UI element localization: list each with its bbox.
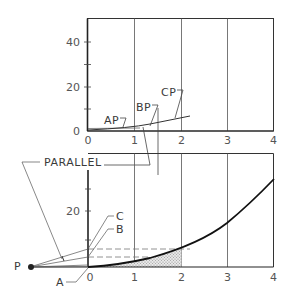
top-ytick-label-0: 0	[73, 125, 80, 138]
parallel-leader-top	[143, 127, 150, 165]
top-xtick-label-0: 0	[85, 134, 92, 147]
label-a: A	[56, 276, 64, 289]
label-bp: BP	[136, 101, 151, 114]
top-ytick-label-40: 40	[66, 36, 80, 49]
parallel-leader-left	[22, 162, 62, 259]
bottom-xtick-label-2: 2	[178, 271, 185, 284]
bottom-ytick-label-20: 20	[66, 205, 80, 218]
bottom-xtick-label-3: 3	[224, 271, 231, 284]
top-xtick-label-3: 3	[224, 134, 231, 147]
bottom-chart: PARALLEL 20 C B P A 0 1 2 3 4	[14, 154, 277, 290]
top-xtick-label-1: 1	[131, 134, 138, 147]
ap-leader	[120, 118, 126, 127]
top-ytick-label-20: 20	[66, 81, 80, 94]
point-p	[28, 264, 34, 270]
label-c: C	[116, 210, 124, 223]
label-parallel: PARALLEL	[44, 156, 102, 169]
bottom-xtick-label-4: 4	[270, 271, 277, 284]
bottom-xtick-label-0: 0	[87, 271, 94, 284]
label-b: B	[116, 223, 124, 236]
top-xtick-label-2: 2	[178, 134, 185, 147]
label-p: P	[14, 260, 21, 273]
bottom-xtick-label-1: 1	[131, 271, 138, 284]
c-leader	[88, 216, 114, 249]
top-xtick-label-4: 4	[270, 134, 277, 147]
graphical-calculus-diagram: 40 20 0 0 1 2 3 4 AP BP CP	[0, 0, 292, 297]
label-ap: AP	[104, 114, 119, 127]
a-leader	[66, 268, 88, 282]
top-chart: 40 20 0 0 1 2 3 4 AP BP CP	[66, 19, 277, 176]
label-cp: CP	[161, 86, 176, 99]
